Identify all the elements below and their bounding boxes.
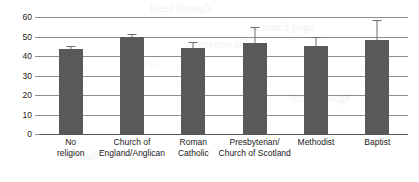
bar-chart: 0102030405060 No religionChurch of Engla… [0, 0, 419, 182]
y-axis-tick [35, 134, 40, 135]
error-bar-cap [127, 34, 136, 35]
y-axis-tick-label: 30 [23, 71, 32, 80]
y-axis-tick-label: 40 [23, 52, 32, 61]
error-bar-cap [250, 27, 259, 28]
error-bar-line [377, 20, 378, 40]
error-bar-cap [189, 42, 198, 43]
bar-slot [40, 17, 101, 134]
y-axis-tick-label: 60 [23, 13, 32, 22]
bar[interactable] [181, 48, 205, 134]
error-bar-line [254, 27, 255, 44]
error-bar-line [315, 37, 316, 47]
y-axis-tick-label: 50 [23, 32, 32, 41]
y-axis-tick-label: 10 [23, 110, 32, 119]
plot-area: 0102030405060 [40, 17, 408, 134]
bar[interactable] [304, 46, 328, 134]
bar-slot [285, 17, 346, 134]
bar[interactable] [59, 49, 83, 134]
bar[interactable] [365, 40, 389, 134]
bar[interactable] [243, 43, 267, 134]
x-axis-category-label: Baptist [337, 137, 418, 148]
y-axis-tick-label: 20 [23, 91, 32, 100]
axis-baseline [40, 134, 408, 135]
bars-group [40, 17, 408, 134]
bar-slot [224, 17, 285, 134]
bar-slot [163, 17, 224, 134]
error-bar-cap [311, 37, 320, 38]
error-bar-cap [66, 46, 75, 47]
bar-slot [101, 17, 162, 134]
x-axis-labels: No religionChurch of England/AnglicanRom… [40, 137, 408, 177]
bar[interactable] [120, 37, 144, 134]
error-bar-cap [373, 20, 382, 21]
bar-slot [347, 17, 408, 134]
